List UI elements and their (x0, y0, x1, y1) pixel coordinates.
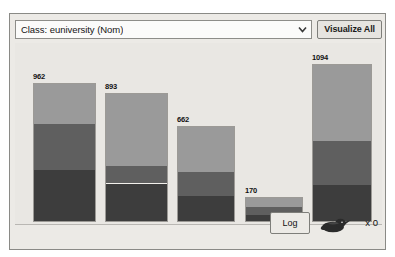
status-bar: Log x 0 (15, 205, 382, 245)
bar-segment (178, 127, 234, 171)
bar-group[interactable]: 962 (33, 83, 96, 222)
histogram-plot-area[interactable]: 9628936621701094 (15, 43, 382, 225)
log-button[interactable]: Log (270, 212, 310, 234)
weka-bird-icon (318, 216, 352, 234)
task-count-label: x 0 (365, 217, 378, 228)
bar-segment (106, 94, 167, 166)
bar-segment (106, 166, 167, 183)
class-control-row: Class: euniversity (Nom) Visualize All (15, 19, 382, 39)
bar-segment (34, 124, 95, 171)
bar-value-label: 1094 (312, 53, 328, 62)
stacked-bar[interactable] (105, 93, 168, 222)
bar-value-label: 893 (105, 82, 117, 91)
bar-value-label: 662 (177, 115, 189, 124)
class-selector-combobox[interactable]: Class: euniversity (Nom) (15, 20, 312, 39)
stacked-bar[interactable] (33, 83, 96, 222)
bar-segment (313, 141, 371, 185)
weka-visualize-panel-screen: Class: euniversity (Nom) Visualize All 9… (0, 0, 395, 257)
attribute-visualization-window: Class: euniversity (Nom) Visualize All 9… (9, 13, 386, 250)
bar-value-label: 170 (245, 186, 257, 195)
bar-segment (34, 84, 95, 123)
class-selector-value: Class: euniversity (Nom) (16, 24, 123, 35)
chevron-down-icon[interactable] (298, 25, 307, 34)
stacked-bar[interactable] (312, 64, 372, 222)
bar-group[interactable]: 893 (105, 93, 168, 222)
bar-group[interactable]: 1094 (312, 64, 372, 222)
visualize-all-button[interactable]: Visualize All (317, 20, 382, 39)
bar-segment (178, 172, 234, 196)
bar-value-label: 962 (33, 72, 45, 81)
bar-segment (313, 65, 371, 141)
bar-series-container: 9628936621701094 (15, 43, 382, 224)
